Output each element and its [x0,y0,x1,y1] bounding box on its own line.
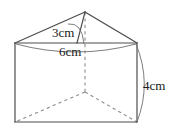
hidden-back-edge-right [85,92,137,122]
edge-apex-to-top-right [85,12,137,43]
triangular-prism-figure: 3cm 6cm 4cm [0,0,177,135]
hidden-edges-group [15,12,137,122]
prism-drawing [0,0,177,135]
edge-apex-to-top-left [15,12,85,43]
hidden-back-edge-left [15,92,85,122]
visible-edges-group [15,12,137,122]
dimension-label-slant-height: 3cm [52,26,74,39]
dimension-arcs-group [16,24,144,122]
dimension-label-base-width: 6cm [59,45,81,58]
dimension-label-prism-length: 4cm [143,79,165,92]
